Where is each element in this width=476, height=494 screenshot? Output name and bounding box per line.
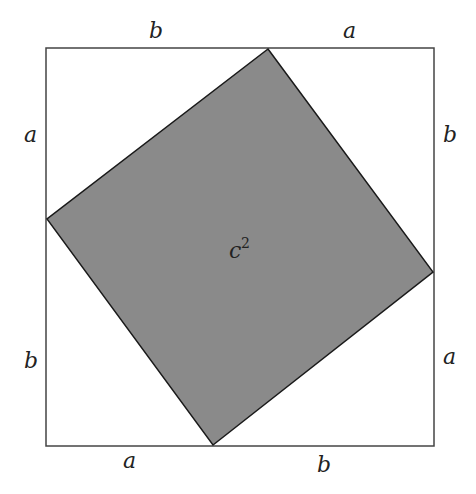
label-left-lower: b: [24, 348, 38, 373]
label-top-right: a: [343, 18, 356, 43]
center-label-base: c: [229, 238, 241, 263]
label-right-lower: a: [443, 344, 456, 369]
label-left-upper: a: [24, 122, 37, 147]
center-label-exponent: 2: [241, 235, 250, 251]
label-right-upper: b: [443, 122, 457, 147]
label-bottom-left: a: [123, 448, 136, 473]
label-top-left: b: [149, 18, 163, 43]
pythagoras-diagram: c 2 b a a b b a a b: [0, 0, 476, 494]
label-bottom-right: b: [317, 452, 331, 477]
